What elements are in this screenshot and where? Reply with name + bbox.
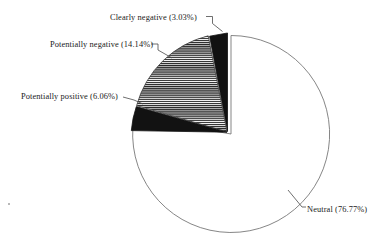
pie-label-neutral: Neutral (76.77%) xyxy=(307,205,367,214)
pie-label-potentially-negative: Potentially negative (14.14%) xyxy=(50,40,153,49)
leader-line-clearly-negative xyxy=(206,17,213,24)
pie-chart-figure: Clearly negative (3.03%) Potentially neg… xyxy=(0,0,392,242)
pie-label-potentially-positive: Potentially positive (6.06%) xyxy=(21,92,118,101)
pie-label-clearly-negative: Clearly negative (3.03%) xyxy=(110,13,197,22)
leader-line-potentially-negative-arm xyxy=(158,50,172,58)
leader-line-clearly-negative-arm xyxy=(213,24,223,32)
scan-artifact-speck xyxy=(8,203,10,205)
